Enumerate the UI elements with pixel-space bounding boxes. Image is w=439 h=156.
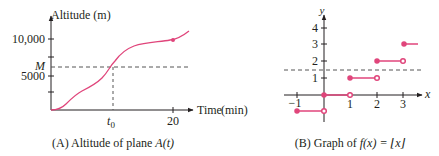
chart-a-point-20 bbox=[171, 38, 175, 42]
chart-a-x-label: Time(min) bbox=[197, 103, 248, 117]
chart-a: Altitude (m) 10,000 M 5000 t0 20 Time(mi… bbox=[12, 8, 248, 150]
chart-a-y-label: Altitude (m) bbox=[51, 8, 111, 22]
closed-dot bbox=[375, 59, 379, 63]
open-dot bbox=[401, 59, 406, 64]
chart-b-tick-y1: 1 bbox=[312, 71, 318, 85]
chart-a-tick-20: 20 bbox=[167, 114, 179, 128]
chart-a-altitude-curve bbox=[51, 31, 189, 110]
figure: Altitude (m) 10,000 M 5000 t0 20 Time(mi… bbox=[0, 0, 439, 156]
closed-dot bbox=[322, 93, 326, 97]
chart-b-tick-y2: 2 bbox=[312, 54, 318, 68]
open-dot bbox=[375, 76, 380, 81]
chart-b-tick-x2: 2 bbox=[374, 97, 380, 111]
chart-a-tick-t0: t0 bbox=[107, 114, 115, 130]
chart-b: y x 1 2 3 4 −1 1 2 3 (B) Graph of f(x) =… bbox=[284, 4, 431, 150]
chart-b-caption: (B) Graph of f(x) = ⌊x⌋ bbox=[295, 136, 406, 150]
chart-b-x-label: x bbox=[424, 87, 431, 101]
chart-b-tick-x3: 3 bbox=[400, 97, 406, 111]
chart-a-tick-5000: 5000 bbox=[21, 69, 45, 83]
chart-b-tick-y4: 4 bbox=[312, 21, 318, 35]
chart-a-tick-10000: 10,000 bbox=[12, 32, 45, 46]
chart-b-tick-x1: 1 bbox=[347, 97, 353, 111]
chart-b-tick-x-neg1: −1 bbox=[289, 96, 302, 110]
closed-dot bbox=[402, 42, 406, 46]
chart-b-tick-y3: 3 bbox=[312, 37, 318, 51]
chart-b-y-label: y bbox=[319, 4, 325, 16]
closed-dot bbox=[348, 76, 352, 80]
open-dot bbox=[322, 109, 327, 114]
chart-a-caption: (A) Altitude of plane A(t) bbox=[52, 136, 174, 150]
